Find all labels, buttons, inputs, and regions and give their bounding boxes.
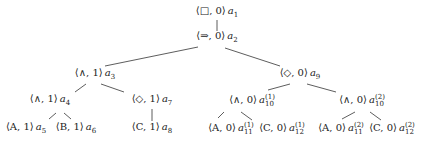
node-subscript: 10 [265, 101, 275, 108]
node-index: (1)11 [244, 122, 254, 136]
tree-node-a11_1: ⟨A, 0⟩ a(1)11 [208, 122, 254, 136]
node-index: (1)10 [265, 94, 275, 108]
node-subscript: 12 [405, 129, 415, 136]
node-tuple: ⟨□, 0⟩ [196, 5, 226, 16]
edge-a10_1-a11_1 [218, 112, 224, 118]
node-tuple: ⟨⇒, 0⟩ [196, 30, 225, 41]
node-tuple: ⟨◇, 0⟩ [280, 67, 308, 78]
tree-diagram: ⟨□, 0⟩ a1⟨⇒, 0⟩ a2⟨∧, 1⟩ a3⟨◇, 0⟩ a9⟨∧, … [0, 0, 436, 144]
edge-a4-a5 [49, 113, 56, 119]
node-tuple: ⟨C, 0⟩ [369, 122, 397, 133]
node-tuple: ⟨C, 0⟩ [259, 122, 287, 133]
node-tuple: ⟨C, 1⟩ [132, 121, 160, 132]
node-subscript: 10 [375, 101, 385, 108]
tree-node-a12_1: ⟨C, 0⟩ a(1)12 [259, 122, 305, 136]
node-subscript: 8 [168, 127, 172, 135]
node-subscript: 9 [316, 73, 320, 81]
node-tuple: ⟨A, 0⟩ [208, 122, 236, 133]
edge-a3-a4 [75, 84, 86, 92]
node-subscript: 11 [354, 129, 364, 136]
tree-node-a2: ⟨⇒, 0⟩ a2 [196, 30, 237, 46]
tree-node-a5: ⟨A, 1⟩ a5 [6, 121, 46, 137]
edge-a3-a7 [101, 84, 124, 92]
tree-node-a12_2: ⟨C, 0⟩ a(2)12 [369, 122, 415, 136]
node-index: (2)10 [375, 94, 385, 108]
node-subscript: 2 [233, 36, 237, 44]
node-tuple: ⟨◇, 1⟩ [132, 93, 160, 104]
node-subscript: 5 [42, 127, 46, 135]
tree-node-a11_2: ⟨A, 0⟩ a(2)11 [318, 122, 364, 136]
node-subscript: 12 [295, 129, 305, 136]
edge-a10_1-a12_1 [241, 112, 252, 120]
tree-node-a10_1: ⟨∧, 0⟩ a(1)10 [229, 94, 275, 108]
node-tuple: ⟨∧, 0⟩ [339, 94, 367, 105]
node-tuple: ⟨A, 1⟩ [6, 121, 34, 132]
tree-node-a4: ⟨∧, 1⟩ a4 [30, 93, 70, 109]
edge-a9-a10_2 [307, 84, 336, 92]
node-subscript: 3 [111, 73, 115, 81]
node-subscript: 6 [92, 127, 96, 135]
node-tuple: ⟨B, 1⟩ [56, 121, 84, 132]
edge-a4-a6 [64, 113, 71, 119]
node-subscript: 11 [244, 129, 254, 136]
node-tuple: ⟨∧, 0⟩ [229, 94, 257, 105]
tree-node-a8: ⟨C, 1⟩ a8 [132, 121, 172, 137]
tree-node-a6: ⟨B, 1⟩ a6 [56, 121, 96, 137]
node-subscript: 1 [234, 11, 238, 19]
tree-node-a3: ⟨∧, 1⟩ a3 [75, 67, 115, 83]
node-tuple: ⟨A, 0⟩ [318, 122, 346, 133]
tree-node-a10_2: ⟨∧, 0⟩ a(2)10 [339, 94, 385, 108]
tree-node-a7: ⟨◇, 1⟩ a7 [132, 93, 173, 109]
node-index: (2)11 [354, 122, 364, 136]
tree-node-a9: ⟨◇, 0⟩ a9 [280, 67, 321, 83]
node-index: (1)12 [295, 122, 305, 136]
node-index: (2)12 [405, 122, 415, 136]
node-subscript: 4 [66, 99, 70, 107]
edge-a2-a3 [105, 47, 198, 66]
edge-a10_2-a11_2 [342, 112, 355, 119]
edge-a10_2-a12_2 [370, 112, 381, 120]
edge-a9-a10_1 [268, 84, 290, 90]
node-subscript: 7 [168, 99, 172, 107]
edge-a2-a9 [225, 48, 280, 66]
node-tuple: ⟨∧, 1⟩ [75, 67, 103, 78]
tree-node-a1: ⟨□, 0⟩ a1 [196, 5, 238, 21]
node-tuple: ⟨∧, 1⟩ [30, 93, 58, 104]
